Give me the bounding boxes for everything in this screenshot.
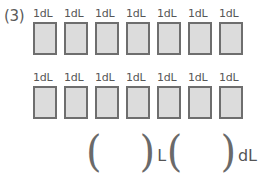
unit-box-shape (95, 86, 119, 119)
unit-box-label: 1dL (157, 72, 177, 84)
unit-box-label: 1dL (219, 8, 239, 20)
unit-box-cell: 1dL (188, 72, 212, 119)
answer-blank-liters[interactable] (102, 137, 140, 165)
unit-box-label: 1dL (126, 72, 146, 84)
unit-box-shape (188, 22, 212, 55)
unit-box-shape (64, 86, 88, 119)
close-paren-deciliters: ) (220, 129, 236, 172)
unit-box-cell: 1dL (95, 8, 119, 55)
unit-box-row-1: 1dL 1dL 1dL 1dL 1dL 1dL 1dL (33, 8, 243, 55)
unit-box-cell: 1dL (95, 72, 119, 119)
unit-box-cell: 1dL (188, 8, 212, 55)
answer-blank-deciliters[interactable] (182, 137, 220, 165)
unit-box-label: 1dL (33, 8, 53, 20)
unit-box-shape (219, 86, 243, 119)
unit-box-label: 1dL (95, 8, 115, 20)
unit-box-cell: 1dL (126, 72, 150, 119)
unit-box-row-2: 1dL 1dL 1dL 1dL 1dL 1dL 1dL (33, 72, 243, 119)
unit-box-label: 1dL (188, 8, 208, 20)
unit-box-shape (126, 22, 150, 55)
unit-box-shape (64, 22, 88, 55)
answer-line: ( ) L ( ) dL (86, 131, 258, 171)
answer-unit-liters: L (157, 148, 166, 171)
unit-box-cell: 1dL (64, 8, 88, 55)
unit-box-label: 1dL (95, 72, 115, 84)
worksheet-problem: (3) 1dL 1dL 1dL 1dL 1dL 1dL 1dL (0, 0, 278, 185)
unit-box-cell: 1dL (219, 72, 243, 119)
unit-box-cell: 1dL (157, 8, 181, 55)
unit-box-shape (157, 86, 181, 119)
unit-box-shape (188, 86, 212, 119)
unit-box-label: 1dL (126, 8, 146, 20)
unit-box-cell: 1dL (33, 8, 57, 55)
unit-box-label: 1dL (64, 8, 84, 20)
unit-box-shape (33, 22, 57, 55)
open-paren-deciliters: ( (167, 129, 183, 172)
unit-box-shape (33, 86, 57, 119)
close-paren-liters: ) (140, 129, 156, 172)
unit-box-cell: 1dL (157, 72, 181, 119)
unit-box-shape (157, 22, 181, 55)
unit-box-label: 1dL (33, 72, 53, 84)
answer-unit-deciliters: dL (238, 148, 256, 171)
unit-box-label: 1dL (219, 72, 239, 84)
unit-box-shape (126, 86, 150, 119)
unit-box-cell: 1dL (64, 72, 88, 119)
unit-box-label: 1dL (188, 72, 208, 84)
unit-box-shape (95, 22, 119, 55)
unit-box-cell: 1dL (126, 8, 150, 55)
unit-box-label: 1dL (64, 72, 84, 84)
unit-box-shape (219, 22, 243, 55)
problem-number: (3) (4, 9, 24, 24)
unit-box-cell: 1dL (219, 8, 243, 55)
unit-box-label: 1dL (157, 8, 177, 20)
open-paren-liters: ( (86, 129, 102, 172)
unit-box-cell: 1dL (33, 72, 57, 119)
